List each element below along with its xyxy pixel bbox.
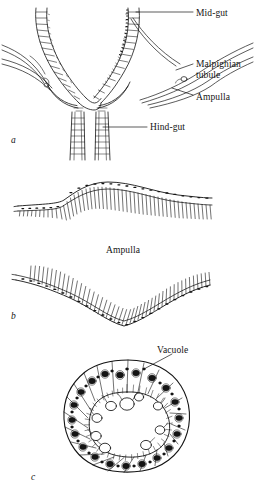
panel-letter-b: b (11, 311, 16, 321)
label-hind-gut: Hind-gut (150, 122, 185, 133)
label-vacuole: Vacuole (157, 345, 188, 356)
label-ampulla-panel-a: Ampulla (196, 92, 230, 103)
panel-a-drawing (0, 0, 255, 170)
label-malpighian-tubule: Malpighiantubule (196, 59, 241, 80)
figure-root: Mid-gut Malpighiantubule Ampulla Hind-gu… (0, 0, 255, 496)
label-ampulla-panel-b: Ampulla (106, 245, 140, 256)
panel-letter-a: a (11, 135, 16, 145)
label-mid-gut: Mid-gut (196, 8, 228, 19)
label-malpighian-line2: tubule (196, 70, 220, 80)
label-malpighian-line1: Malpighian (196, 59, 241, 69)
leader-malpighian (176, 64, 193, 70)
panel-letter-c: c (31, 472, 35, 482)
panel-c-drawing (0, 336, 255, 496)
